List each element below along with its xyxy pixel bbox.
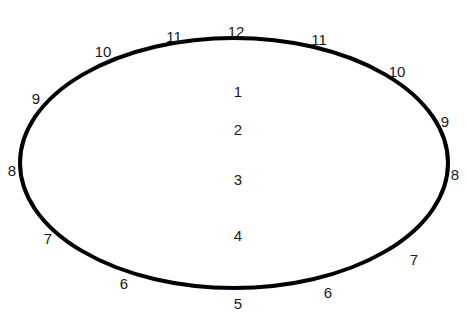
perimeter-label-7-5: 7 <box>44 231 52 246</box>
perimeter-label-11-1: 11 <box>166 29 182 44</box>
perimeter-label-6-6: 6 <box>120 276 128 291</box>
perimeter-label-10-12: 10 <box>389 64 406 79</box>
perimeter-label-7-9: 7 <box>410 252 418 267</box>
perimeter-label-8-4: 8 <box>8 163 16 178</box>
perimeter-label-10-2: 10 <box>95 44 112 59</box>
perimeter-label-9-3: 9 <box>32 91 40 106</box>
ellipse-shape <box>0 0 468 318</box>
figure-canvas: 1211109876567891011 1234 <box>0 0 468 318</box>
perimeter-label-9-11: 9 <box>441 114 449 129</box>
ellipse-outline <box>20 38 448 288</box>
perimeter-label-8-10: 8 <box>451 167 459 182</box>
interior-label-4-3: 4 <box>234 228 242 243</box>
interior-label-3-2: 3 <box>234 172 242 187</box>
perimeter-label-6-8: 6 <box>324 285 332 300</box>
perimeter-label-12-0: 12 <box>228 24 245 39</box>
interior-label-1-0: 1 <box>234 84 242 99</box>
interior-label-2-1: 2 <box>234 122 242 137</box>
perimeter-label-11-13: 11 <box>311 32 327 47</box>
perimeter-label-5-7: 5 <box>234 296 242 311</box>
